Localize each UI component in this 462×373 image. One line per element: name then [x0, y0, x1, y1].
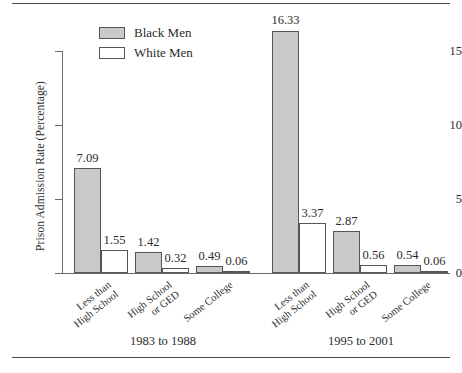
cat-label-1983-college: Some College [179, 279, 235, 326]
bar-1983-hsged-white[interactable] [162, 268, 189, 273]
legend-item-white-men[interactable]: White Men [99, 44, 193, 61]
bar-1995-college-white[interactable] [421, 271, 448, 273]
bar-value-1983-college-white: 0.06 [210, 255, 263, 268]
y-tick-5 [55, 199, 63, 200]
group-label-1995: 1995 to 2001 [296, 334, 426, 348]
y-tick-15 [55, 51, 63, 52]
y-tick-label-0: 0 [418, 267, 462, 279]
y-tick-label-15: 15 [418, 45, 462, 57]
group-label-1983: 1983 to 1988 [98, 334, 228, 348]
bar-value-1995-lths-black: 16.33 [256, 14, 315, 27]
bar-value-1983-lths-black: 7.09 [61, 152, 114, 165]
cat-label-1983-lths: Less than High School [57, 279, 120, 335]
chart-legend: Black Men White Men [99, 24, 193, 64]
x-axis-baseline [62, 273, 450, 274]
figure-container: Prison Admission Rate (Percentage) 0 5 1… [0, 0, 462, 373]
legend-label-black-men: Black Men [134, 26, 191, 39]
bar-1995-lths-white[interactable] [299, 223, 326, 273]
cat-label-1995-college: Some College [377, 279, 433, 326]
legend-item-black-men[interactable]: Black Men [99, 24, 193, 41]
cat-label-1983-hsged: High School or GED [118, 279, 181, 335]
bar-1983-lths-white[interactable] [101, 250, 128, 273]
y-tick-label-5: 5 [418, 193, 462, 205]
y-tick-label-10: 10 [418, 119, 462, 131]
bar-value-1995-hsged-black: 2.87 [320, 215, 373, 228]
cat-label-line1: Some College [179, 279, 235, 326]
bar-1995-lths-black[interactable] [272, 31, 299, 273]
cat-label-line1: Some College [377, 279, 433, 326]
legend-swatch-icon-white-men [99, 47, 125, 59]
cat-label-1995-lths: Less than High School [255, 279, 318, 335]
cat-label-1995-hsged: High School or GED [316, 279, 379, 335]
bar-value-1995-college-white: 0.06 [408, 255, 461, 268]
legend-label-white-men: White Men [134, 46, 193, 59]
bar-1995-hsged-white[interactable] [360, 265, 387, 273]
chart-plot-area: Prison Admission Rate (Percentage) 0 5 1… [0, 0, 462, 373]
y-axis-title: Prison Admission Rate (Percentage) [34, 56, 46, 276]
bar-1983-college-white[interactable] [223, 271, 250, 273]
bar-value-1983-hsged-black: 1.42 [122, 236, 175, 249]
y-tick-10 [55, 125, 63, 126]
y-tick-0 [55, 273, 63, 274]
bar-1983-lths-black[interactable] [74, 168, 101, 273]
legend-swatch-icon-black-men [99, 27, 125, 39]
